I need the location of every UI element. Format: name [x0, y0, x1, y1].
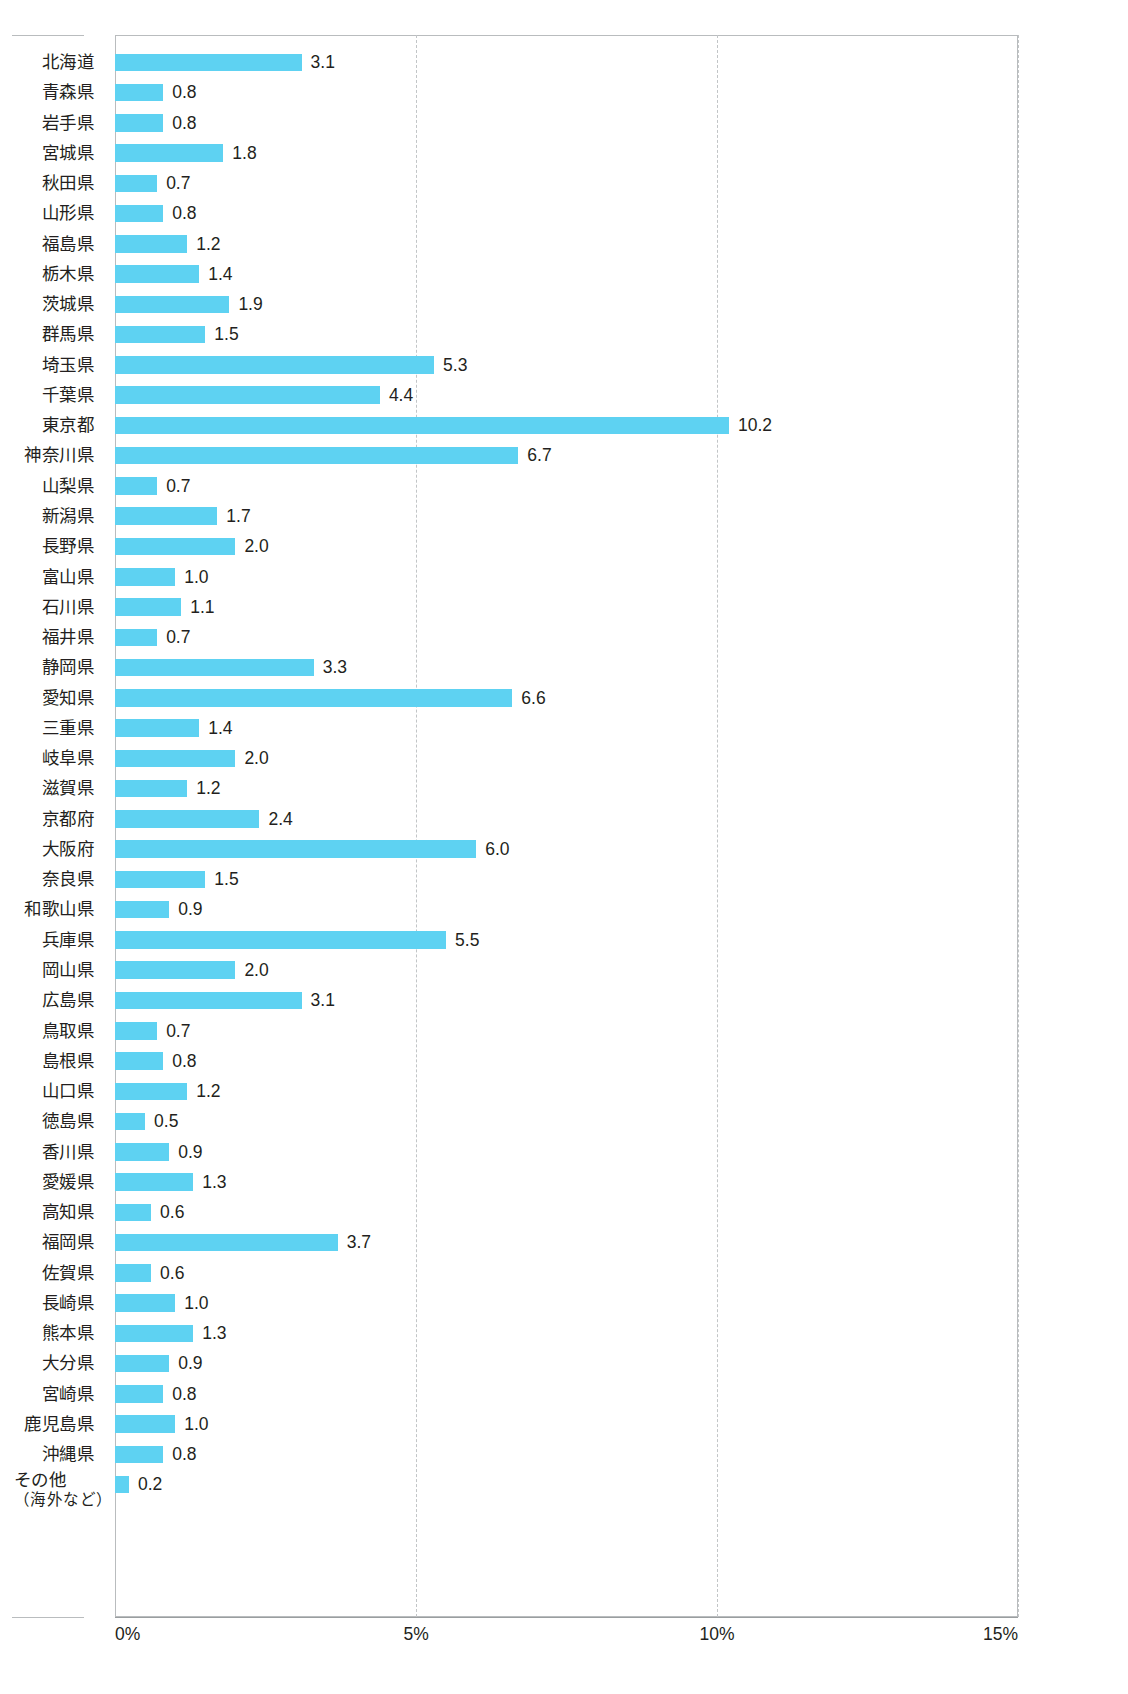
bar [115, 538, 235, 556]
category-label: 熊本県 [42, 1318, 94, 1348]
bar-row: 鹿児島県1.0 [0, 1409, 1128, 1439]
bar-value-label: 0.6 [160, 1197, 184, 1227]
x-tick-15pct: 15% [983, 1624, 1018, 1645]
bar-row: 埼玉県5.3 [0, 350, 1128, 380]
bar [115, 144, 223, 162]
bar [115, 598, 181, 616]
bar-value-label: 3.3 [323, 652, 347, 682]
bar-value-label: 1.2 [196, 1076, 220, 1106]
bar-row: 和歌山県0.9 [0, 894, 1128, 924]
category-label: 千葉県 [42, 380, 94, 410]
category-label: 島根県 [42, 1046, 94, 1076]
bar [115, 719, 199, 737]
bar-value-label: 6.0 [485, 834, 509, 864]
bar-row: 奈良県1.5 [0, 864, 1128, 894]
category-label: 鹿児島県 [24, 1409, 94, 1439]
category-label: 青森県 [42, 77, 94, 107]
category-label: 静岡県 [42, 652, 94, 682]
bar-row: 大分県0.9 [0, 1348, 1128, 1378]
category-label: 佐賀県 [42, 1258, 94, 1288]
bar-row: 徳島県0.5 [0, 1106, 1128, 1136]
category-label: 福島県 [42, 229, 94, 259]
category-label: 香川県 [42, 1137, 94, 1167]
bar-row: 石川県1.1 [0, 592, 1128, 622]
category-label: 埼玉県 [42, 350, 94, 380]
bar [115, 114, 163, 132]
bar-row: 茨城県1.9 [0, 289, 1128, 319]
bar-row: 新潟県1.7 [0, 501, 1128, 531]
bar-row: 滋賀県1.2 [0, 773, 1128, 803]
bar [115, 1415, 175, 1433]
bar-value-label: 4.4 [389, 380, 413, 410]
bar-value-label: 1.7 [226, 501, 250, 531]
category-label: 秋田県 [42, 168, 94, 198]
category-label: 広島県 [42, 985, 94, 1015]
category-label: 和歌山県 [24, 894, 94, 924]
bar-value-label: 0.8 [172, 198, 196, 228]
bar-row: 宮城県1.8 [0, 138, 1128, 168]
bar-row: 愛知県6.6 [0, 683, 1128, 713]
category-label: 兵庫県 [42, 925, 94, 955]
bar-value-label: 0.6 [160, 1258, 184, 1288]
category-label: 富山県 [42, 562, 94, 592]
bar [115, 780, 187, 798]
bar-value-label: 1.0 [184, 1409, 208, 1439]
prefecture-distribution-bar-chart: 北海道3.1青森県0.8岩手県0.8宮城県1.8秋田県0.7山形県0.8福島県1… [0, 0, 1128, 1694]
bar-value-label: 0.8 [172, 1439, 196, 1469]
bar-value-label: 0.8 [172, 1379, 196, 1409]
bar [115, 1294, 175, 1312]
bar-row: 福岡県3.7 [0, 1227, 1128, 1257]
bar [115, 1083, 187, 1101]
bar [115, 1143, 169, 1161]
bar-row: 岩手県0.8 [0, 108, 1128, 138]
bar-row: 宮崎県0.8 [0, 1379, 1128, 1409]
bar [115, 296, 229, 314]
bar-row: 愛媛県1.3 [0, 1167, 1128, 1197]
bar-row: 広島県3.1 [0, 985, 1128, 1015]
x-tick-10pct: 10% [700, 1624, 735, 1645]
bar-value-label: 0.8 [172, 1046, 196, 1076]
bar-value-label: 1.2 [196, 773, 220, 803]
category-label: その他（海外など） [14, 1471, 112, 1508]
bar [115, 629, 157, 647]
bar-value-label: 0.9 [178, 1137, 202, 1167]
bar-value-label: 6.7 [527, 440, 551, 470]
bar-row: 兵庫県5.5 [0, 925, 1128, 955]
bar-row: その他（海外など）0.2 [0, 1469, 1128, 1499]
bar-row: 神奈川県6.7 [0, 440, 1128, 470]
bar-row: 千葉県4.4 [0, 380, 1128, 410]
bar-value-label: 5.3 [443, 350, 467, 380]
bar-value-label: 0.8 [172, 108, 196, 138]
category-label: 大分県 [42, 1348, 94, 1378]
category-label: 茨城県 [42, 289, 94, 319]
category-label: 群馬県 [42, 319, 94, 349]
bar [115, 871, 205, 889]
category-label: 愛知県 [42, 683, 94, 713]
bar [115, 840, 476, 858]
category-label: 大阪府 [42, 834, 94, 864]
bar [115, 54, 302, 72]
bar-row: 山梨県0.7 [0, 471, 1128, 501]
bar-row: 熊本県1.3 [0, 1318, 1128, 1348]
bar-row: 秋田県0.7 [0, 168, 1128, 198]
bar-value-label: 1.1 [190, 592, 214, 622]
category-label: 岡山県 [42, 955, 94, 985]
category-label: 岐阜県 [42, 743, 94, 773]
category-label: 宮城県 [42, 138, 94, 168]
category-label: 高知県 [42, 1197, 94, 1227]
bar [115, 961, 235, 979]
bar-value-label: 3.7 [347, 1227, 371, 1257]
x-tick-0pct: 0% [115, 1624, 140, 1645]
category-label: 鳥取県 [42, 1016, 94, 1046]
bar-value-label: 2.0 [244, 955, 268, 985]
bar-value-label: 1.4 [208, 713, 232, 743]
bar [115, 1264, 151, 1282]
bar [115, 1022, 157, 1040]
bar-value-label: 2.4 [268, 804, 292, 834]
category-label: 山梨県 [42, 471, 94, 501]
bar-row: 富山県1.0 [0, 562, 1128, 592]
bar-row: 長野県2.0 [0, 531, 1128, 561]
category-label: 東京都 [42, 410, 94, 440]
x-axis-line [115, 1617, 1018, 1618]
bar [115, 447, 518, 465]
